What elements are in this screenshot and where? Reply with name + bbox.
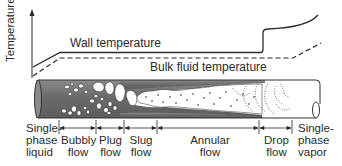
pipe-inlet-end xyxy=(35,80,42,118)
y-axis xyxy=(30,9,35,78)
regime-annular-flow: Annular flow xyxy=(180,134,240,158)
regime-drop-flow: Drop flow xyxy=(262,134,291,158)
pipe xyxy=(35,80,321,118)
y-axis-label: Temperature xyxy=(4,0,16,62)
regime-bubbly-flow: Bubbly flow xyxy=(61,134,95,158)
regime-arrows xyxy=(60,127,291,130)
wall-temperature-label: Wall temperature xyxy=(70,37,161,49)
pipe-outlet-end xyxy=(313,102,320,118)
axis-arrow-icon xyxy=(30,9,35,16)
regime-single-phase-liquid: Single- phase liquid xyxy=(26,122,62,158)
regime-slug-flow: Slug flow xyxy=(126,134,156,158)
bulk-fluid-temperature-label: Bulk fluid temperature xyxy=(150,61,267,73)
regime-single-phase-vapor: Single- phase vapor xyxy=(298,122,334,158)
regime-plug-flow: Plug flow xyxy=(98,134,123,158)
regime-dividers xyxy=(59,120,292,134)
